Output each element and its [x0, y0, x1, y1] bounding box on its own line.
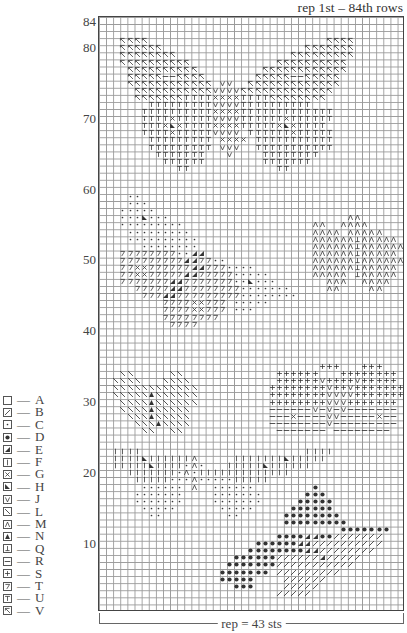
chart-cell-U — [205, 108, 212, 115]
chart-cell-V — [183, 66, 190, 73]
chart-cell-S — [368, 384, 375, 391]
chart-cell-U — [290, 144, 297, 151]
chart-cell-T — [119, 271, 126, 278]
chart-cell-S — [368, 377, 375, 384]
chart-cell-V — [126, 73, 133, 80]
chart-cell-L — [141, 406, 148, 413]
chart-cell-C — [126, 221, 133, 228]
chart-cell-V — [340, 37, 347, 44]
chart-cell-T — [162, 306, 169, 313]
chart-cell-G — [290, 122, 297, 129]
chart-cell-S — [368, 363, 375, 370]
chart-cell-L — [155, 406, 162, 413]
chart-cell-L — [176, 427, 183, 434]
chart-cell-M — [311, 250, 318, 257]
chart-cell-V — [269, 87, 276, 94]
chart-cell-R — [347, 427, 354, 434]
chart-cell-R — [347, 413, 354, 420]
chart-cell-U — [304, 122, 311, 129]
chart-cell-V — [155, 87, 162, 94]
chart-cell-V — [255, 80, 262, 87]
chart-cell-F — [212, 469, 219, 476]
chart-cell-D — [290, 540, 297, 547]
repeat-stitch-count-label: rep = 43 sts — [217, 616, 285, 632]
chart-cell-F — [112, 448, 119, 455]
chart-cell-V — [340, 66, 347, 73]
chart-cell-C — [240, 299, 247, 306]
chart-cell-U — [183, 101, 190, 108]
chart-cell-D — [255, 554, 262, 561]
chart-cell-T — [176, 306, 183, 313]
chart-cell-V — [141, 80, 148, 87]
chart-cell-U — [276, 136, 283, 143]
chart-cell-C — [119, 214, 126, 221]
chart-cell-U — [283, 129, 290, 136]
chart-cell-L — [119, 377, 126, 384]
chart-cell-M — [368, 278, 375, 285]
chart-cell-U — [319, 129, 326, 136]
chart-cell-L — [183, 391, 190, 398]
chart-cell-E — [304, 540, 311, 547]
chart-cell-B — [276, 569, 283, 576]
chart-cell-T — [126, 278, 133, 285]
chart-cell-L — [141, 413, 148, 420]
chart-cell-M — [347, 250, 354, 257]
chart-cell-S — [283, 391, 290, 398]
chart-cell-V — [169, 87, 176, 94]
chart-cell-V — [333, 80, 340, 87]
chart-cell-T — [162, 257, 169, 264]
chart-cell-L — [176, 384, 183, 391]
chart-cell-J — [326, 399, 333, 406]
chart-cell-D — [233, 554, 240, 561]
chart-cell-B — [361, 547, 368, 554]
chart-cell-V — [134, 44, 141, 51]
chart-cell-V — [134, 37, 141, 44]
chart-cell-U — [141, 122, 148, 129]
chart-cell-T — [141, 278, 148, 285]
chart-cell-V — [119, 37, 126, 44]
chart-cell-D — [255, 569, 262, 576]
chart-cell-F — [319, 455, 326, 462]
chart-cell-S — [297, 391, 304, 398]
row-label-80: 80 — [78, 40, 96, 56]
chart-cell-D — [297, 519, 304, 526]
chart-cell-V — [326, 37, 333, 44]
chart-cell-U — [290, 108, 297, 115]
chart-cell-V — [283, 87, 290, 94]
chart-cell-T — [162, 278, 169, 285]
chart-cell-S — [283, 384, 290, 391]
chart-cell-F — [233, 462, 240, 469]
chart-cell-U — [183, 115, 190, 122]
chart-cell-S — [326, 377, 333, 384]
chart-cell-C — [183, 462, 190, 469]
chart-cell-V — [126, 59, 133, 66]
chart-cell-F — [112, 455, 119, 462]
chart-cell-M — [311, 236, 318, 243]
chart-cell-B — [354, 540, 361, 547]
chart-cell-B — [347, 554, 354, 561]
chart-cell-V — [319, 59, 326, 66]
chart-cell-R — [311, 427, 318, 434]
chart-cell-T — [226, 271, 233, 278]
chart-cell-V — [304, 44, 311, 51]
chart-cell-G — [219, 122, 226, 129]
chart-cell-U — [191, 94, 198, 101]
chart-cell-M — [326, 250, 333, 257]
chart-cell-M — [311, 271, 318, 278]
chart-cell-F — [155, 469, 162, 476]
chart-cell-B — [283, 576, 290, 583]
chart-cell-L — [155, 413, 162, 420]
chart-cell-B — [354, 533, 361, 540]
chart-cell-T — [219, 264, 226, 271]
chart-cell-C — [226, 505, 233, 512]
chart-cell-U — [176, 115, 183, 122]
chart-cell-V — [290, 59, 297, 66]
chart-cell-N — [148, 399, 155, 406]
chart-cell-D — [304, 491, 311, 498]
chart-cell-L — [162, 384, 169, 391]
chart-cell-R — [276, 420, 283, 427]
chart-cell-F — [247, 455, 254, 462]
chart-cell-V — [290, 94, 297, 101]
small-dot-square-icon — [3, 420, 12, 429]
chart-cell-B — [311, 576, 318, 583]
